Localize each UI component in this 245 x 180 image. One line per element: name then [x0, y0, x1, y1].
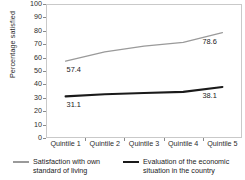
x-axis-tick-mark [203, 138, 204, 141]
y-axis-tick-label: 0 [38, 134, 42, 141]
x-axis-tick-label: Quintile 4 [168, 140, 198, 148]
x-axis-tick-mark [164, 138, 165, 141]
y-axis-tick-label: 70 [34, 41, 42, 48]
x-axis-tick-label: Quintile 3 [129, 140, 159, 148]
legend-label: Evaluation of the economic situation in … [143, 157, 235, 175]
x-axis-tick-mark [124, 138, 125, 141]
y-axis-tick-mark [43, 125, 46, 126]
y-axis-tick-mark [43, 58, 46, 59]
x-axis-tick-label: Quintile 1 [50, 140, 80, 148]
chart-legend: Satisfaction with own standard of living… [0, 157, 245, 180]
legend-line-swatch [123, 161, 139, 163]
x-axis-tick-label: Quintile 5 [207, 140, 237, 148]
y-axis-tick-label: 80 [34, 27, 42, 34]
legend-item[interactable]: Evaluation of the economic situation in … [123, 157, 235, 175]
y-axis-tick-mark [43, 138, 46, 139]
y-axis-tick-mark [43, 98, 46, 99]
legend-label: Satisfaction with own standard of living [33, 157, 125, 175]
data-point-label: 31.1 [67, 101, 81, 108]
y-axis-tick-mark [43, 84, 46, 85]
y-axis-tick-label: 60 [34, 54, 42, 61]
data-point-label: 78.6 [202, 38, 216, 45]
y-axis-tick-labels: 0102030405060708090100 [16, 2, 42, 138]
y-axis-tick-mark [43, 17, 46, 18]
y-axis-tick-mark [43, 31, 46, 32]
data-point-label: 57.4 [67, 66, 81, 73]
series-line [66, 33, 223, 61]
legend-line-swatch [13, 161, 29, 163]
y-axis-tick-label: 50 [34, 67, 42, 74]
y-axis-tick-label: 30 [34, 94, 42, 101]
x-axis-tick-mark [85, 138, 86, 141]
line-chart: Percentage satisfied 0102030405060708090… [0, 0, 245, 180]
y-axis-tick-label: 20 [34, 108, 42, 115]
x-axis-tick-label: Quintile 2 [90, 140, 120, 148]
y-axis-tick-label: 90 [34, 14, 42, 21]
y-axis-tick-label: 40 [34, 81, 42, 88]
data-point-label: 38.1 [202, 92, 216, 99]
x-axis-tick-labels: Quintile 1Quintile 2Quintile 3Quintile 4… [46, 140, 242, 152]
series-line [66, 87, 223, 96]
y-axis-tick-mark [43, 44, 46, 45]
y-axis-tick-mark [43, 111, 46, 112]
y-axis-tick-label: 10 [34, 121, 42, 128]
y-axis-tick-label: 100 [30, 0, 42, 7]
legend-item[interactable]: Satisfaction with own standard of living [13, 157, 125, 175]
y-axis-tick-mark [43, 4, 46, 5]
y-axis-tick-mark [43, 71, 46, 72]
